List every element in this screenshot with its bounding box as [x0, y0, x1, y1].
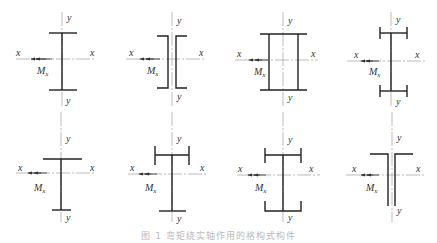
y-axis-label-top: y: [396, 132, 402, 143]
y-axis-label-top: y: [395, 14, 401, 25]
moment-label: Mx: [36, 65, 49, 78]
y-axis-label-top: y: [287, 15, 293, 26]
panel-2-double-channel: x x y y Mx: [126, 12, 206, 108]
panel-4-lipped-flange-section: x x y y Mx: [347, 12, 425, 108]
y-axis-label-bottom: y: [396, 205, 402, 216]
moment-label: Mx: [368, 66, 381, 79]
y-axis-label-bottom: y: [176, 213, 182, 224]
x-axis-label-left: x: [237, 163, 243, 174]
panel-8-double-angle-t: x x y y Mx: [346, 112, 425, 222]
diagram-canvas: x x y y Mx x x y y Mx x x y y Mx: [0, 0, 437, 243]
moment-label: Mx: [146, 65, 159, 78]
x-axis-label-left: x: [236, 48, 242, 59]
panel-5-mono-symmetric-i: x x y y Mx: [16, 112, 96, 223]
x-axis-label-left: x: [15, 47, 21, 58]
panel-3-box-section: x x y y Mx: [235, 12, 318, 108]
y-axis-label-bottom: y: [65, 95, 71, 106]
x-axis-label-right: x: [199, 162, 205, 173]
panel-6-lipped-top-flange-i: x x y y Mx: [128, 112, 206, 224]
moment-label: Mx: [254, 182, 267, 195]
x-axis-label-left: x: [351, 163, 357, 174]
x-axis-label-left: x: [129, 162, 135, 173]
y-axis-label-top: y: [287, 134, 293, 145]
x-axis-label-right: x: [89, 162, 95, 173]
y-axis-label-bottom: y: [65, 212, 71, 223]
y-axis-label-top: y: [66, 12, 72, 23]
y-axis-label-top: y: [65, 133, 71, 144]
x-axis-label-right: x: [310, 48, 316, 59]
figure-caption: 图 1 弯矩绕实轴作用的格构式构件: [0, 229, 437, 242]
moment-label: Mx: [253, 66, 266, 79]
x-axis-label-right: x: [415, 163, 421, 174]
x-axis-label-left: x: [128, 47, 134, 58]
moment-label: Mx: [33, 182, 46, 195]
y-axis-label-bottom: y: [395, 96, 401, 107]
y-axis-label-top: y: [176, 133, 182, 144]
x-axis-label-left: x: [353, 49, 359, 60]
y-axis-label-top: y: [176, 15, 182, 26]
panel-1-i-section: x x y y Mx: [15, 12, 96, 108]
y-axis-label-bottom: y: [176, 91, 182, 102]
y-axis-label-bottom: y: [287, 92, 293, 103]
y-axis-label-bottom: y: [287, 212, 293, 223]
x-axis-label-right: x: [308, 163, 314, 174]
x-axis-label-right: x: [414, 49, 420, 60]
x-axis-label-right: x: [89, 47, 95, 58]
panel-7-lipped-top-channel-bottom: x x y y Mx: [237, 112, 320, 223]
x-axis-label-left: x: [17, 162, 23, 173]
moment-label: Mx: [365, 182, 378, 195]
x-axis-label-right: x: [198, 47, 204, 58]
moment-label: Mx: [144, 182, 157, 195]
